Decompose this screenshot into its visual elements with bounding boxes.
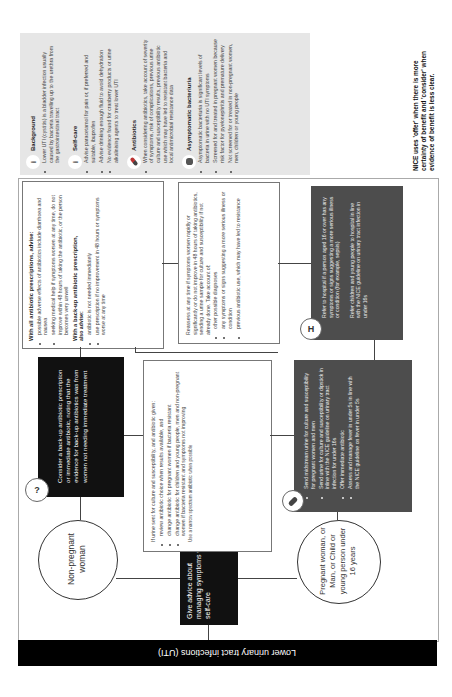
bacteria-icon [182,155,196,169]
connector [80,497,81,520]
sidebar-section-asymptomatic: Asymptomatic bacteriuria Asymptomatic ba… [182,39,241,169]
connector [374,340,375,360]
hospital-h-icon: H [300,318,322,340]
connector [278,263,311,264]
sidebar-content: i Background Lower UTI (cystitis) is a b… [20,33,310,175]
connector [80,347,81,357]
connector [208,625,209,640]
title-bar: Lower urinary tract infections (UTI) [18,640,437,666]
sidebar-section-self-care: i Self-care Advise paracetamol for pain … [68,39,120,169]
connector [135,352,278,353]
nice-note: NICE uses 'offer' when there is more cer… [410,33,450,173]
connector [116,578,180,579]
sidebar-section-background: i Background Lower UTI (cystitis) is a b… [26,39,62,169]
connector [270,435,294,436]
page-title: Lower urinary tract infections (UTI) [158,648,296,658]
pill-icon [282,490,304,512]
sidebar-section-antibiotics: Antibiotics When considering antibiotics… [127,39,176,169]
connector [124,435,143,436]
connector [162,263,178,264]
info-icon: i [26,155,40,169]
connector [337,512,338,520]
question-pill-icon: ? [25,478,49,502]
pill-icon [127,155,141,169]
info-icon: i [68,155,82,169]
connector [238,578,297,579]
